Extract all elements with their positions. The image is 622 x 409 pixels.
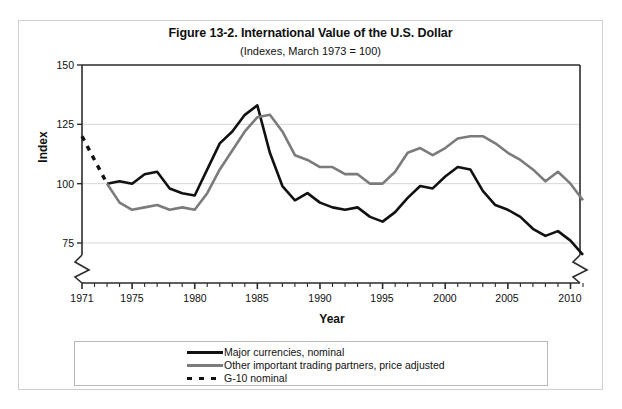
gridlines (82, 124, 580, 243)
legend-label-other-partners: Other important trading partners, price … (224, 360, 445, 371)
data-series (82, 105, 583, 255)
legend: Major currencies, nominal Other importan… (74, 341, 548, 386)
figure-root: Figure 13-2. International Value of the … (0, 0, 622, 409)
legend-swatch-solid-gray-icon (187, 360, 223, 371)
x-axis-ticks (82, 283, 583, 289)
legend-label-g10: G-10 nominal (224, 373, 287, 384)
legend-swatch-solid-black-icon (187, 347, 223, 358)
legend-item-other-partners: Other important trading partners, price … (187, 359, 445, 372)
legend-label-major-currencies: Major currencies, nominal (224, 347, 344, 358)
legend-item-g10: G-10 nominal (187, 372, 287, 385)
legend-item-major-currencies: Major currencies, nominal (187, 346, 344, 359)
legend-swatch-dashed-black-icon (187, 373, 223, 384)
